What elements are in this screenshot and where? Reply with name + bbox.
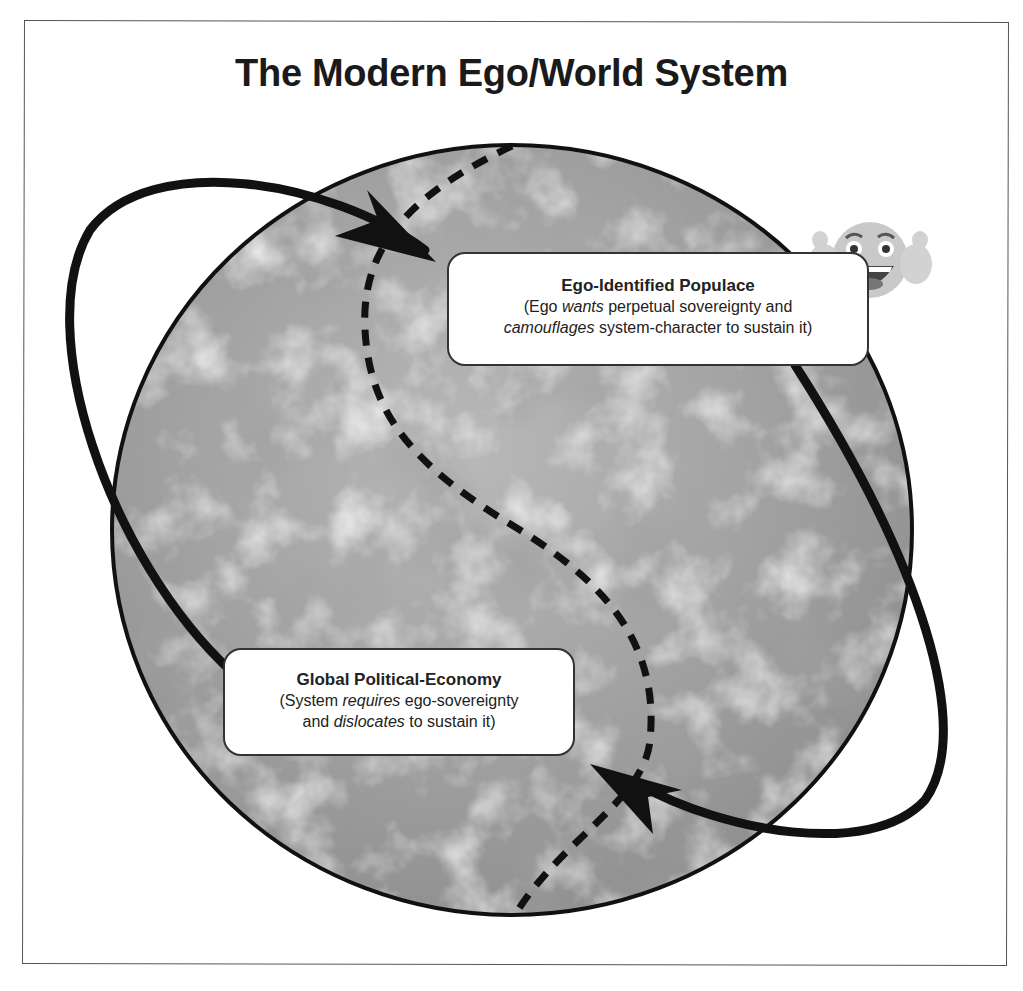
text: perpetual sovereignty and [604, 298, 793, 315]
ego-identified-populace-node: Ego-Identified Populace (Ego wants perpe… [447, 252, 869, 366]
emphasis-text: wants [562, 298, 604, 315]
text: system-character to sustain it) [594, 319, 812, 336]
global-political-economy-node: Global Political-Economy (System require… [223, 648, 575, 756]
node-heading: Global Political-Economy [225, 670, 573, 690]
text: (Ego [524, 298, 562, 315]
emphasis-text: requires [343, 692, 401, 709]
text: (System [279, 692, 342, 709]
emphasis-text: dislocates [334, 713, 405, 730]
node-heading: Ego-Identified Populace [449, 276, 867, 296]
diagram-canvas [0, 0, 1023, 991]
text: ego-sovereignty [400, 692, 518, 709]
text: to sustain it) [405, 713, 496, 730]
node-description: (Ego wants perpetual sovereignty and cam… [449, 296, 867, 338]
emphasis-text: camouflages [504, 319, 595, 336]
node-description: (System requires ego-sovereignty and dis… [225, 690, 573, 732]
text: and [303, 713, 334, 730]
